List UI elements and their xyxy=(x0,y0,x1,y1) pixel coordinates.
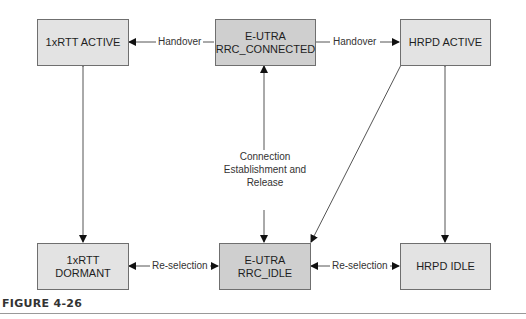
node-label-line2: RRC_IDLE xyxy=(238,267,292,280)
node-label: HRPD IDLE xyxy=(416,260,475,273)
connection-line3: Release xyxy=(222,176,308,189)
caption-rule xyxy=(0,313,526,314)
node-label-line1: E-UTRA xyxy=(216,30,316,43)
node-label-line1: E-UTRA xyxy=(238,254,292,267)
node-hrpd-active: HRPD ACTIVE xyxy=(400,19,491,66)
edge-label-reselection-right: Re-selection xyxy=(330,260,390,272)
edge-label-handover-right: Handover xyxy=(331,36,378,48)
edge-label-connection: Connection Establishment and Release xyxy=(222,150,308,189)
node-1xrtt-dormant: 1xRTT DORMANT xyxy=(37,243,129,290)
connection-line1: Connection xyxy=(222,150,308,163)
edge-label-reselection-left: Re-selection xyxy=(150,260,210,272)
node-label: 1xRTT DORMANT xyxy=(38,254,128,280)
node-label: 1xRTT ACTIVE xyxy=(46,36,121,49)
connection-line2: Establishment and xyxy=(222,163,308,176)
edge-label-handover-left: Handover xyxy=(156,36,203,48)
node-eutra-rrc-idle: E-UTRA RRC_IDLE xyxy=(219,243,311,290)
node-1xrtt-active: 1xRTT ACTIVE xyxy=(37,19,129,66)
node-hrpd-idle: HRPD IDLE xyxy=(400,243,491,290)
node-eutra-rrc-connected: E-UTRA RRC_CONNECTED xyxy=(215,19,316,66)
figure-caption: FIGURE 4-26 xyxy=(2,297,82,310)
node-label-line2: RRC_CONNECTED xyxy=(216,43,316,56)
node-label: HRPD ACTIVE xyxy=(409,36,482,49)
